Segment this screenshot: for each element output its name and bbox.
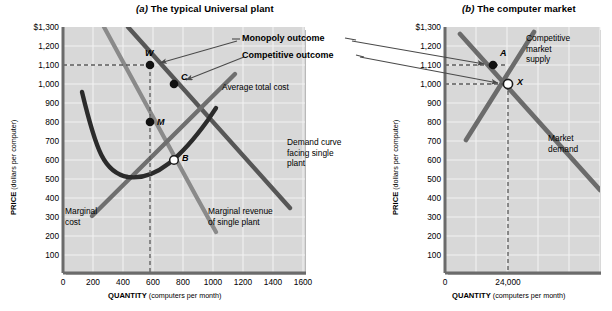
point-A[interactable]	[489, 61, 498, 70]
panel-b-xtick-0: 0	[435, 277, 455, 287]
label-market-demand: Market demand	[548, 133, 578, 154]
panel-b-title-text: The computer market	[474, 3, 575, 14]
point-label-C: C	[181, 72, 188, 82]
point-X[interactable]	[503, 79, 512, 88]
panel-a-title-text: The typical Universal plant	[148, 3, 274, 14]
panel-b-y-axis-label-sub: (dollars per computer)	[391, 119, 400, 191]
panel-a-y-axis-label: PRICE (dollars per computer)	[9, 119, 18, 215]
panel-b-ytick-1000: 1,000	[392, 79, 441, 89]
panel-a-xtick-1600: 1600	[288, 277, 318, 287]
point-C[interactable]	[170, 80, 179, 89]
panel-a-x-axis-label: QUANTITY (computers per month)	[108, 291, 222, 300]
panel-b-x-axis-label-bold: QUANTITY	[452, 291, 491, 300]
panel-a-title-letter: (a)	[136, 3, 148, 14]
panel-b-ytick-100: 100	[392, 250, 441, 260]
leader-stub-monopoly-right	[345, 38, 356, 40]
panel-a-ytick-1200: 1,200	[10, 41, 59, 51]
panel-b-ytick-1100: 1,100	[392, 60, 441, 70]
label-marginal-cost: Marginal cost	[65, 206, 97, 227]
panel-a-plot	[63, 27, 306, 275]
panel-b-x-axis-label-sub: (computers per month)	[491, 291, 566, 300]
panel-a-xtick-1000: 1000	[198, 277, 228, 287]
panel-b-ytick-900: 900	[392, 98, 441, 108]
panel-a-ytick-900: 900	[10, 98, 59, 108]
label-marginal-revenue: Marginal revenue of single plant	[208, 206, 273, 227]
callout-competitive-outcome: Competitive outcome	[242, 50, 334, 60]
panel-a-xtick-1200: 1200	[228, 277, 258, 287]
panel-a-xtick-800: 800	[170, 277, 196, 287]
panel-b-title-letter: (b)	[462, 3, 474, 14]
point-label-X: X	[517, 77, 523, 87]
panel-a-y-axis-label-sub: (dollars per computer)	[9, 119, 18, 191]
point-W[interactable]	[146, 61, 155, 70]
panel-a-title: (a) The typical Universal plant	[136, 3, 274, 14]
panel-b-ytick-1300: $1,300	[392, 22, 441, 32]
point-B[interactable]	[170, 156, 179, 165]
panel-b-ytick-200: 200	[392, 231, 441, 241]
panel-b-xtick-24000: 24,000	[486, 277, 530, 287]
panel-b-title: (b) The computer market	[462, 3, 576, 14]
panel-a-ytick-200: 200	[10, 231, 59, 241]
panel-b-x-axis-label: QUANTITY (computers per month)	[452, 291, 566, 300]
panel-b-y-axis-label: PRICE (dollars per computer)	[391, 119, 400, 215]
label-average-total-cost: Average total cost	[222, 82, 289, 93]
panel-a-ytick-100: 100	[10, 250, 59, 260]
panel-a-x-axis-label-bold: QUANTITY	[108, 291, 147, 300]
panel-a-xtick-200: 200	[80, 277, 106, 287]
panel-b-y-axis-label-bold: PRICE	[391, 192, 400, 215]
panel-a-xtick-400: 400	[110, 277, 136, 287]
point-label-M: M	[157, 117, 165, 127]
panel-a-ytick-1100: 1,100	[10, 60, 59, 70]
point-label-W: W	[145, 48, 154, 58]
panel-a-xtick-1400: 1400	[258, 277, 288, 287]
panel-a-y-axis-label-bold: PRICE	[9, 192, 18, 215]
panel-a-xtick-600: 600	[140, 277, 166, 287]
panel-a-ytick-1300: $1,300	[10, 22, 59, 32]
point-label-A: A	[500, 48, 507, 58]
leader-stub-competitive-right	[356, 55, 364, 57]
panel-b-ytick-1200: 1,200	[392, 41, 441, 51]
panel-a-xtick-0: 0	[53, 277, 73, 287]
callout-monopoly-outcome: Monopoly outcome	[242, 33, 325, 43]
point-M[interactable]	[146, 118, 155, 127]
panel-a-ytick-1000: 1,000	[10, 79, 59, 89]
panel-a-x-axis-label-sub: (computers per month)	[147, 291, 222, 300]
label-demand-curve-single-plant: Demand curve facing single plant	[287, 137, 341, 169]
label-competitive-market-supply: Competitive market supply	[526, 33, 570, 65]
point-label-B: B	[182, 153, 189, 163]
